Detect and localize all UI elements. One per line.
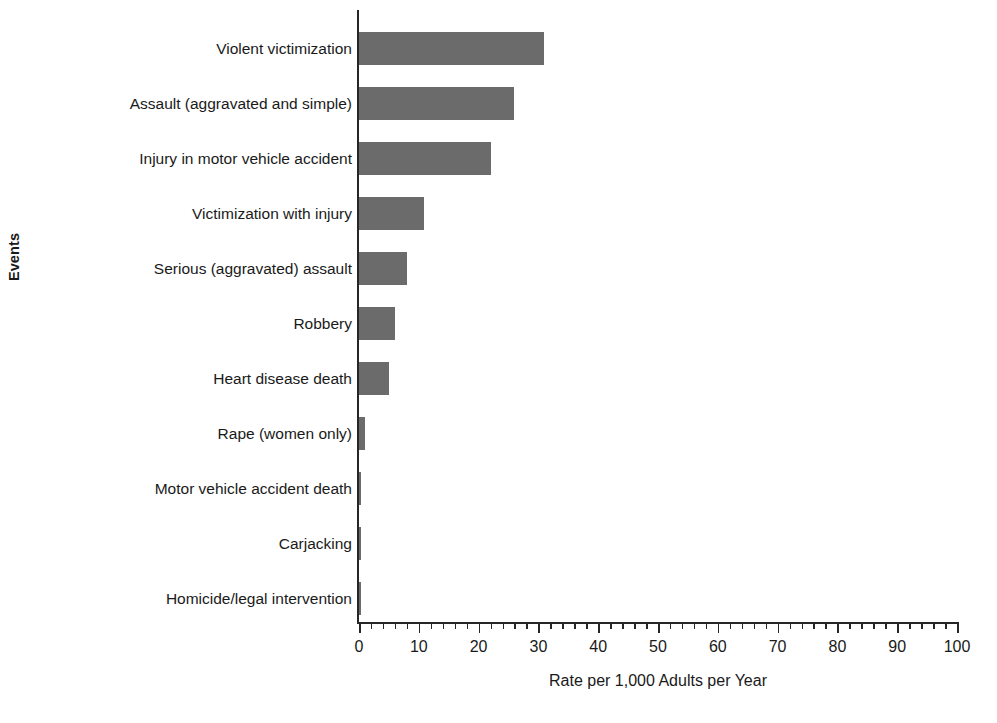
x-axis-tick-label: 50 [628, 638, 688, 656]
x-axis-minor-tick [646, 624, 648, 629]
x-axis-minor-tick [526, 624, 528, 629]
x-axis-tick-label: 80 [807, 638, 867, 656]
x-axis-minor-tick [909, 624, 911, 629]
x-axis-major-tick [598, 624, 600, 633]
x-axis-tick-label: 40 [568, 638, 628, 656]
bar-chart: Events Violent victimizationAssault (agg… [0, 0, 997, 723]
category-label: Robbery [0, 315, 352, 333]
bar [359, 582, 361, 615]
x-axis-minor-tick [407, 624, 409, 629]
x-axis-minor-tick [802, 624, 804, 629]
x-axis-minor-tick [550, 624, 552, 629]
x-axis-tick-label: 20 [449, 638, 509, 656]
x-axis-minor-tick [861, 624, 863, 629]
x-axis-major-tick [837, 624, 839, 633]
category-label: Violent victimization [0, 40, 352, 58]
category-label: Heart disease death [0, 370, 352, 388]
x-axis-major-tick [479, 624, 481, 633]
x-axis-minor-tick [754, 624, 756, 629]
x-axis-major-tick [957, 624, 959, 633]
x-axis-major-tick [897, 624, 899, 633]
category-label: Rape (women only) [0, 425, 352, 443]
x-axis-major-tick [359, 624, 361, 633]
x-axis-tick-label: 60 [688, 638, 748, 656]
x-axis-minor-tick [945, 624, 947, 629]
bar [359, 527, 361, 560]
x-axis-minor-tick [730, 624, 732, 629]
x-axis-major-tick [538, 624, 540, 633]
x-axis-minor-tick [562, 624, 564, 629]
x-axis-minor-tick [586, 624, 588, 629]
x-axis-tick-label: 10 [389, 638, 449, 656]
x-axis-minor-tick [383, 624, 385, 629]
bar [359, 32, 544, 65]
x-axis-minor-tick [706, 624, 708, 629]
x-axis-minor-tick [766, 624, 768, 629]
x-axis-title: Rate per 1,000 Adults per Year [359, 672, 957, 690]
category-label: Serious (aggravated) assault [0, 260, 352, 278]
bar [359, 87, 514, 120]
category-label: Carjacking [0, 535, 352, 553]
x-axis-minor-tick [610, 624, 612, 629]
x-axis-minor-tick [455, 624, 457, 629]
x-axis-major-tick [718, 624, 720, 633]
x-axis-minor-tick [467, 624, 469, 629]
x-axis-minor-tick [574, 624, 576, 629]
bar [359, 197, 424, 230]
x-axis-tick-label: 90 [867, 638, 927, 656]
x-axis-minor-tick [921, 624, 923, 629]
x-axis-major-tick [419, 624, 421, 633]
x-axis-minor-tick [634, 624, 636, 629]
x-axis-minor-tick [682, 624, 684, 629]
x-axis-minor-tick [491, 624, 493, 629]
x-axis-minor-tick [933, 624, 935, 629]
x-axis-minor-tick [885, 624, 887, 629]
x-axis-minor-tick [514, 624, 516, 629]
x-axis-minor-tick [849, 624, 851, 629]
x-axis-minor-tick [873, 624, 875, 629]
x-axis-minor-tick [694, 624, 696, 629]
x-axis-minor-tick [825, 624, 827, 629]
category-label-column: Violent victimizationAssault (aggravated… [0, 10, 352, 622]
bar [359, 472, 361, 505]
x-axis-major-tick [658, 624, 660, 633]
x-axis-minor-tick [503, 624, 505, 629]
category-label: Homicide/legal intervention [0, 590, 352, 608]
x-axis-tick-label: 0 [329, 638, 389, 656]
x-axis-minor-tick [431, 624, 433, 629]
x-axis-tick-label: 100 [927, 638, 987, 656]
x-axis-minor-tick [670, 624, 672, 629]
x-axis-minor-tick [371, 624, 373, 629]
category-label: Victimization with injury [0, 205, 352, 223]
bar [359, 142, 491, 175]
category-label: Injury in motor vehicle accident [0, 150, 352, 168]
x-axis-minor-tick [790, 624, 792, 629]
x-axis-minor-tick [622, 624, 624, 629]
bar [359, 362, 389, 395]
bar [359, 252, 407, 285]
category-label: Motor vehicle accident death [0, 480, 352, 498]
x-axis-minor-tick [742, 624, 744, 629]
x-axis-minor-tick [395, 624, 397, 629]
bar [359, 417, 365, 450]
x-axis-major-tick [778, 624, 780, 633]
x-axis-tick-label: 30 [508, 638, 568, 656]
plot-area [359, 10, 957, 622]
x-axis-minor-tick [443, 624, 445, 629]
x-axis-minor-tick [813, 624, 815, 629]
category-label: Assault (aggravated and simple) [0, 95, 352, 113]
bar [359, 307, 395, 340]
x-axis-tick-label: 70 [748, 638, 808, 656]
